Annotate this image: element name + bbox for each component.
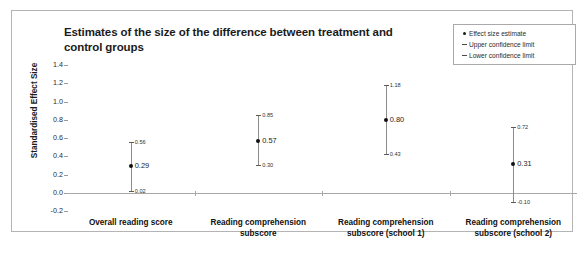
chart-title: Estimates of the size of the difference … — [64, 25, 394, 55]
lower-confidence-value-label: 0.43 — [390, 151, 401, 157]
chart-frame: Estimates of the size of the difference … — [11, 10, 573, 232]
upper-confidence-cap — [384, 85, 389, 86]
y-axis-tick-mark — [64, 156, 68, 157]
x-axis-label-0: Overall reading score — [67, 217, 195, 228]
y-axis-tick-mark — [64, 138, 68, 139]
chart-legend: Effect size estimate Upper confidence li… — [453, 24, 576, 65]
legend-item-label: Effect size estimate — [469, 29, 526, 38]
y-axis-tick-mark — [64, 175, 68, 176]
y-axis-tick-mark — [64, 102, 68, 103]
lower-confidence-cap — [256, 165, 261, 166]
legend-item-label: Upper confidence limit — [469, 40, 534, 49]
legend-dash-icon — [460, 51, 469, 60]
y-axis-tick-mark — [64, 120, 68, 121]
legend-item-label: Lower confidence limit — [469, 51, 534, 60]
upper-confidence-cap — [129, 142, 134, 143]
lower-confidence-cap — [129, 191, 134, 192]
x-axis-label-line: Reading comprehension — [322, 217, 450, 228]
x-axis-label-2: Reading comprehension subscore (school 1… — [322, 217, 450, 239]
effect-size-point[interactable] — [256, 139, 260, 143]
legend-dash-icon — [460, 40, 469, 49]
upper-confidence-cap — [511, 127, 516, 128]
effect-size-point[interactable] — [129, 164, 133, 168]
legend-dot-icon — [460, 29, 469, 38]
x-axis-label-line: Overall reading score — [67, 217, 195, 228]
category-separator-tick — [450, 191, 451, 196]
x-axis-label-line: Reading comprehension — [450, 217, 578, 228]
y-axis-tick-mark — [64, 211, 68, 212]
legend-item-effect-size-estimate: Effect size estimate — [460, 28, 571, 38]
upper-confidence-value-label: 0.72 — [517, 124, 528, 130]
x-axis-label-1: Reading comprehension subscore — [195, 217, 323, 239]
chart-figure: Estimates of the size of the difference … — [0, 0, 586, 255]
y-axis-tick-mark — [64, 83, 68, 84]
plot-area: 1.41.21.00.80.60.40.20.0-0.2 0.560.290.0… — [67, 65, 577, 211]
category-separator-tick — [322, 191, 323, 196]
lower-confidence-value-label: -0.10 — [517, 199, 530, 205]
lower-confidence-value-label: 0.30 — [262, 162, 273, 168]
category-separator-tick — [195, 191, 196, 196]
effect-size-point[interactable] — [384, 118, 388, 122]
x-axis-label-line: subscore (school 1) — [322, 228, 450, 239]
effect-size-value-label: 0.57 — [262, 137, 276, 145]
effect-size-point[interactable] — [511, 162, 515, 166]
lower-confidence-value-label: 0.02 — [135, 188, 146, 194]
lower-confidence-cap — [511, 202, 516, 203]
x-axis-label-line: Reading comprehension — [195, 217, 323, 228]
y-axis-title: Standardised Effect Size — [30, 46, 39, 176]
effect-size-value-label: 0.80 — [390, 116, 404, 124]
x-axis-label-line: subscore (school 2) — [450, 228, 578, 239]
effect-size-value-label: 0.31 — [517, 160, 531, 168]
x-axis-label-line: subscore — [195, 228, 323, 239]
upper-confidence-value-label: 1.18 — [390, 82, 401, 88]
upper-confidence-value-label: 0.56 — [135, 139, 146, 145]
x-axis-label-3: Reading comprehension subscore (school 2… — [450, 217, 578, 239]
effect-size-value-label: 0.29 — [135, 162, 149, 170]
upper-confidence-cap — [256, 115, 261, 116]
y-axis-tick-mark — [64, 65, 68, 66]
lower-confidence-cap — [384, 154, 389, 155]
upper-confidence-value-label: 0.85 — [262, 112, 273, 118]
legend-item-lower-confidence-limit: Lower confidence limit — [460, 50, 571, 60]
legend-item-upper-confidence-limit: Upper confidence limit — [460, 39, 571, 49]
